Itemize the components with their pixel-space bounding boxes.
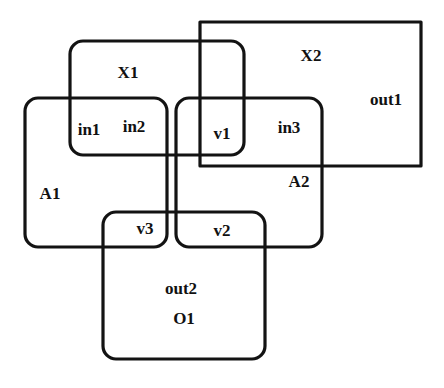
label-x1: X1 [118,64,139,81]
label-a1: A1 [40,185,61,202]
label-v3: v3 [137,220,154,237]
label-in2: in2 [123,118,146,135]
label-out2: out2 [165,280,197,297]
label-a2: A2 [289,173,310,190]
label-x2: X2 [301,47,322,64]
label-o1: O1 [173,310,195,327]
diagram-canvas: X2 X1 A1 A2 O1 in1 in2 v1 in3 out1 v3 v2… [0,0,444,388]
label-in1: in1 [78,121,101,138]
label-out1: out1 [370,91,402,108]
diagram-shapes-layer [0,0,444,388]
label-v2: v2 [214,222,231,239]
label-in3: in3 [278,119,301,136]
label-v1: v1 [214,125,231,142]
